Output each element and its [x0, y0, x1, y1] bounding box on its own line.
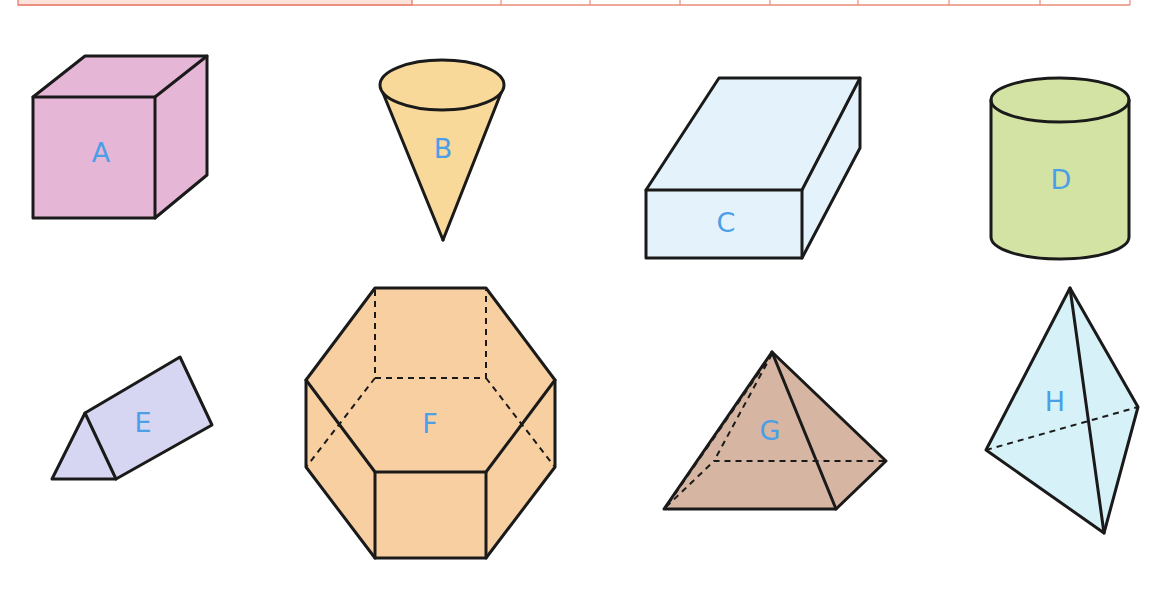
shape-c-label: C — [717, 207, 736, 238]
shape-d-cylinder: D — [991, 78, 1129, 259]
shape-e-label: E — [134, 407, 151, 438]
shape-a-label: A — [92, 137, 111, 168]
shape-g-label: G — [760, 415, 781, 446]
shape-d-label: D — [1051, 164, 1072, 195]
shape-b-label: B — [434, 133, 453, 164]
shape-g-square-pyramid: G — [664, 352, 886, 509]
shape-a-cube: A — [33, 56, 207, 218]
shape-h-label: H — [1045, 386, 1065, 417]
shape-f-hexagonal-prism: F — [306, 288, 555, 558]
shape-c-rectangular-prism: C — [646, 78, 860, 258]
shape-e-triangular-prism: E — [52, 357, 212, 479]
shape-f-label: F — [422, 408, 438, 439]
shape-b-cone: B — [380, 60, 504, 240]
solid-shapes-diagram: A B C D E — [0, 0, 1166, 590]
shape-h-triangular-pyramid: H — [986, 288, 1138, 533]
